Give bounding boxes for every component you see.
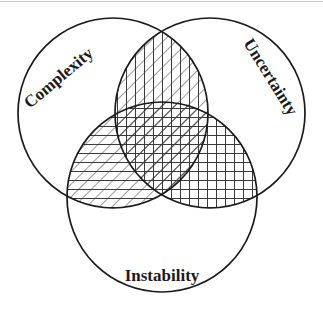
venn-diagram-figure: Complexity Uncertainty Instability	[0, 0, 323, 321]
venn-diagram-canvas: Complexity Uncertainty Instability	[0, 0, 323, 321]
label-instability: Instability	[125, 266, 200, 285]
label-uncertainty: Uncertainty	[240, 35, 302, 119]
label-complexity: Complexity	[20, 43, 97, 112]
